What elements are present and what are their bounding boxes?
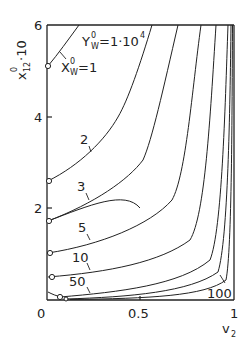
curve-label-2: 2 (80, 132, 88, 147)
marker-5 (47, 250, 52, 255)
curve-label-5: 5 (78, 220, 86, 235)
y-label-main: x (14, 72, 29, 80)
yw-exp: 4 (140, 31, 145, 40)
leader-5 (87, 234, 90, 240)
y-label-sup: 0 (10, 67, 19, 72)
y-tick-label-4: 4 (34, 110, 42, 125)
y-axis-label: x 12 0 ·10 (10, 40, 32, 80)
ticks (47, 117, 140, 300)
curve-label-100: 100 (207, 286, 232, 301)
leader-50 (87, 287, 90, 293)
leader-3 (86, 193, 89, 200)
marker-100 (64, 297, 68, 301)
xw-value: =1 (78, 60, 97, 75)
start-markers (45, 63, 68, 301)
marker-10 (49, 274, 54, 279)
yw-sup: 0 (91, 31, 96, 40)
marker-3 (46, 218, 51, 223)
x-label-sub: 2 (231, 330, 236, 339)
xw-sup: 0 (70, 57, 75, 66)
marker-2 (46, 178, 51, 183)
chart: 6 4 2 0 0.5 1 v 2 x 12 0 ·10 (0, 0, 247, 351)
marker-50 (57, 294, 62, 299)
y-tick-label-6: 6 (34, 18, 42, 33)
yw-value: =1·10 (99, 34, 139, 49)
x-tick-label-0: 0 (37, 306, 45, 321)
y-tick-label-2: 2 (34, 201, 42, 216)
marker-1e4 (45, 63, 50, 68)
curve-3 (48, 25, 178, 221)
x-axis-label: v 2 (222, 321, 236, 339)
y-label-sub: 12 (23, 62, 32, 72)
curve-label-3: 3 (77, 179, 85, 194)
xw-sub: W (70, 68, 78, 77)
curve-label-10: 10 (72, 250, 89, 265)
x-tick-label-1: 1 (230, 306, 238, 321)
leader-xw (60, 52, 66, 59)
y-label-suffix: ·10 (14, 40, 29, 61)
xw-main: X (61, 60, 70, 75)
curve-label-50: 50 (69, 274, 86, 289)
x-label-main: v (222, 321, 230, 336)
yw-main: Y (81, 34, 90, 49)
annotation-xw: X 0 W =1 (61, 57, 97, 77)
annotation-yw: Y 0 W =1·10 4 (81, 31, 145, 51)
yw-sub: W (91, 42, 99, 51)
x-tick-label-05: 0.5 (128, 306, 149, 321)
